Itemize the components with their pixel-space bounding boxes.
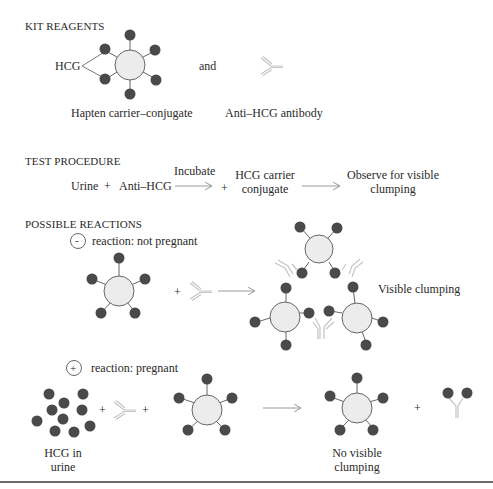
- antibody-icon: [261, 57, 283, 76]
- observe-line2: clumping: [343, 182, 443, 196]
- no-clumping-line2: clumping: [325, 460, 389, 474]
- hcg-in-urine-caption: HCG in urine: [38, 446, 88, 474]
- positive-reaction-label: reaction: pregnant: [91, 361, 178, 375]
- positive-symbol: +: [70, 361, 76, 375]
- possible-reactions-heading: POSSIBLE REACTIONS: [25, 217, 142, 231]
- plus-sign: +: [414, 401, 421, 415]
- step-urine: Urine: [71, 179, 98, 193]
- visible-clumping-label: Visible clumping: [378, 282, 460, 296]
- plus-sign: +: [174, 285, 181, 299]
- diagram-graphics: [0, 0, 493, 489]
- step-anti-hcg: Anti–HCG: [119, 179, 172, 193]
- plus-sign: +: [99, 403, 106, 417]
- hcg-caption-line2: urine: [38, 460, 88, 474]
- hcg-in-urine-dots: [32, 389, 96, 438]
- plus-sign: +: [221, 181, 228, 195]
- bottom-divider: [0, 481, 493, 483]
- carrier-conjugate-positive: [174, 374, 238, 436]
- conjugate-caption: Hapten carrier–conjugate: [71, 106, 193, 120]
- kit-reagents-heading: KIT REAGENTS: [25, 19, 105, 33]
- test-procedure-heading: TEST PROCEDURE: [25, 154, 121, 168]
- hcg-label: HCG: [55, 59, 80, 73]
- antibody-hcg-complex: [443, 388, 473, 419]
- observe-step: Observe for visible clumping: [343, 168, 443, 196]
- antibody-icon: [114, 401, 136, 420]
- hapten-carrier-conjugate: [82, 30, 162, 100]
- step-conjugate-line1: HCG carrier: [232, 168, 298, 182]
- and-label: and: [199, 59, 216, 73]
- plus-sign: +: [104, 179, 111, 193]
- step-conjugate: HCG carrier conjugate: [232, 168, 298, 196]
- carrier-conjugate-unbound: [325, 373, 389, 436]
- carrier-conjugate-negative: [87, 253, 151, 319]
- plus-sign: +: [142, 403, 149, 417]
- antibody-icon: [190, 282, 212, 301]
- visible-clump: [250, 222, 389, 351]
- no-clumping-line1: No visible: [325, 446, 389, 460]
- antibody-caption: Anti–HCG antibody: [225, 106, 323, 120]
- incubate-label: Incubate: [174, 164, 215, 178]
- negative-symbol: -: [75, 233, 79, 247]
- hcg-caption-line1: HCG in: [38, 446, 88, 460]
- no-clumping-caption: No visible clumping: [325, 446, 389, 474]
- step-conjugate-line2: conjugate: [232, 182, 298, 196]
- negative-reaction-label: reaction: not pregnant: [92, 234, 197, 248]
- observe-line1: Observe for visible: [343, 168, 443, 182]
